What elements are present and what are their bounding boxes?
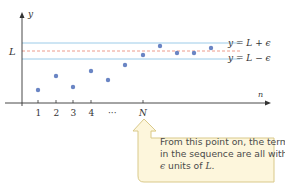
y-axis-arrow-icon <box>20 12 25 18</box>
x-tick-label-ellipsis: ··· <box>108 108 117 118</box>
point-4 <box>89 69 93 73</box>
x-tick-label-3: 3 <box>71 108 77 118</box>
x-axis-arrow-icon <box>265 101 271 106</box>
x-tick-label-4: 4 <box>89 108 95 118</box>
point-5 <box>106 78 110 82</box>
callout-line-3: ϵ units of L. <box>160 160 275 172</box>
x-tick-label-1: 1 <box>36 108 42 118</box>
point-9 <box>175 51 179 55</box>
point-8 <box>158 44 162 48</box>
y-axis-label: y <box>27 9 34 19</box>
point-6 <box>123 63 127 67</box>
point-10 <box>192 51 196 55</box>
callout-line-1: From this point on, the terms <box>160 136 275 148</box>
lower-band-label: y = L − ϵ <box>227 53 271 63</box>
callout-text: From this point on, the terms in the seq… <box>160 136 275 172</box>
x-tick-label-2: 2 <box>54 108 60 118</box>
upper-band-label: y = L + ϵ <box>227 38 271 48</box>
point-11 <box>209 46 213 50</box>
y-tick-label-L: L <box>8 46 16 57</box>
callout-line-2: in the sequence are all within <box>160 148 275 160</box>
x-tick-label-N: N <box>138 108 148 118</box>
x-axis-label: n <box>258 90 263 99</box>
point-3 <box>71 85 75 89</box>
point-2 <box>54 74 58 78</box>
point-1 <box>36 88 40 92</box>
point-7 <box>141 53 145 57</box>
